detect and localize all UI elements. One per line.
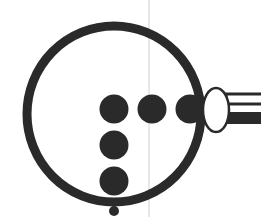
handle-collar-ellipse — [203, 88, 229, 132]
dot-row-2 — [138, 95, 167, 124]
dot-small — [109, 206, 119, 216]
dot-row-1 — [100, 95, 129, 124]
dot-row-3 — [176, 95, 205, 124]
dot-col-1 — [100, 131, 129, 160]
dot-col-2 — [100, 167, 129, 196]
handle-top-band — [226, 94, 261, 104]
handle-bottom-band — [226, 112, 261, 124]
magnifying-glass-diagram — [0, 0, 261, 217]
